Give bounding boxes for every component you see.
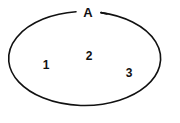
element-3: 3 <box>126 66 133 80</box>
set-a-label: A <box>83 5 93 20</box>
set-a-outline-left <box>9 12 161 106</box>
set-diagram-svg: A 1 2 3 <box>0 0 180 123</box>
element-1: 1 <box>43 58 50 72</box>
element-2: 2 <box>86 49 93 63</box>
set-diagram-canvas: A 1 2 3 <box>0 0 180 123</box>
